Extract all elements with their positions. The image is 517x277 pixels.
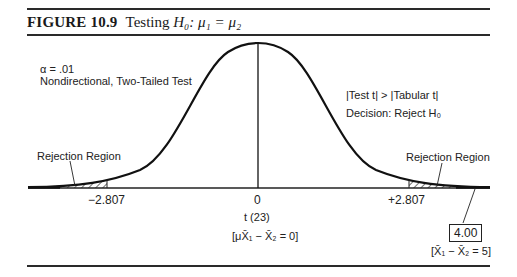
bottom-rule <box>27 265 490 267</box>
tick-label-center: 0 <box>254 193 261 207</box>
tick-label-left: −2.807 <box>88 193 125 207</box>
rejection-region-left-label: Rejection Region <box>37 150 121 162</box>
test-value-box: 4.00 <box>449 224 482 242</box>
tick-label-right: +2.807 <box>388 193 425 207</box>
test-value-leader <box>463 189 475 223</box>
decision-label: Decision: Reject H₀ <box>346 107 441 119</box>
difference-label: [X̄₁ − X̄₂ = 5] <box>431 245 491 257</box>
x-axis-label: t (23) <box>244 211 270 223</box>
alpha-label: α = .01 <box>40 63 74 75</box>
left-leader <box>70 161 75 186</box>
mean-label: [μX̄₁ − X̄₂ = 0] <box>232 230 298 242</box>
right-leader <box>437 163 442 186</box>
comparison-label: |Test t| > |Tabular t| <box>346 89 438 101</box>
test-type-label: Nondirectional, Two-Tailed Test <box>40 75 192 87</box>
rejection-region-right-label: Rejection Region <box>406 151 490 163</box>
